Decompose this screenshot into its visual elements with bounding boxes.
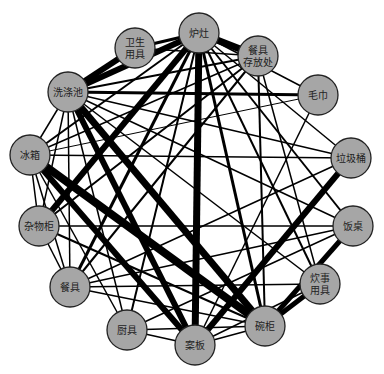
node-label: 饭桌: [343, 220, 363, 232]
node-fanzhuo: 饭桌: [333, 206, 373, 246]
node-bingxiang: 冰箱: [10, 135, 50, 175]
node-lajitong: 垃圾桶: [331, 138, 371, 178]
node-chuju: 厨具: [107, 310, 147, 350]
node-label: 碗柜: [255, 320, 275, 332]
node-chuishi: 炊事用具: [300, 264, 340, 304]
node-label: 用具: [125, 49, 145, 60]
node-zawugui: 杂物柜: [19, 206, 59, 246]
node-maojin: 毛巾: [298, 75, 338, 115]
node-label: 案板: [185, 339, 205, 351]
node-canju: 餐具: [50, 267, 90, 307]
node-label: 卫生: [125, 36, 145, 48]
node-label: 厨具: [117, 325, 137, 336]
node-label: 毛巾: [308, 89, 328, 101]
node-label: 杂物柜: [24, 220, 54, 232]
edge-xidichi-canju: [68, 92, 70, 287]
edge-bingxiang-lajitong: [30, 155, 351, 158]
node-weisheng: 卫生用具: [115, 28, 155, 68]
node-anban: 案板: [175, 325, 215, 365]
node-label: 冰箱: [20, 149, 40, 161]
node-label: 餐具: [60, 281, 80, 293]
node-label: 炊事: [310, 272, 330, 284]
node-label: 餐具: [248, 44, 268, 56]
node-label: 洗涤池: [53, 86, 83, 98]
network-diagram: 炉灶卫生用具餐具存放处洗涤池毛巾冰箱垃圾桶杂物柜饭桌餐具炊事用具厨具碗柜案板: [0, 0, 384, 374]
edge-canjucunfang-wangui: [258, 56, 265, 326]
node-label: 存放处: [243, 56, 273, 68]
edge-xidichi-maojin: [68, 92, 318, 95]
node-canjucunfang: 餐具存放处: [238, 36, 278, 76]
node-label: 垃圾桶: [336, 152, 366, 164]
node-wangui: 碗柜: [245, 306, 285, 346]
node-label: 炉灶: [189, 27, 209, 39]
node-xidichi: 洗涤池: [48, 72, 88, 112]
node-luzao: 炉灶: [179, 13, 219, 53]
node-label: 用具: [310, 285, 330, 296]
network-svg: 炉灶卫生用具餐具存放处洗涤池毛巾冰箱垃圾桶杂物柜饭桌餐具炊事用具厨具碗柜案板: [0, 0, 384, 374]
